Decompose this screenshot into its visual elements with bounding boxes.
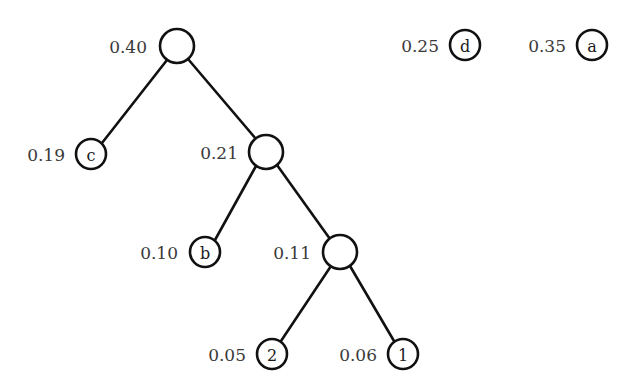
node-label-one: 1	[398, 346, 408, 365]
node-label-two: 2	[267, 346, 277, 365]
node-circle-n021[interactable]	[249, 135, 283, 169]
node-weight-one: 0.06	[339, 345, 377, 365]
tree-node-one[interactable]: 1	[388, 339, 418, 369]
tree-edge-n011-two	[281, 266, 331, 341]
node-weight-two: 0.05	[208, 345, 246, 365]
tree-node-a[interactable]: a	[577, 30, 607, 60]
tree-node-b[interactable]: b	[190, 237, 220, 267]
tree-diagram: cb21da 0.400.190.210.100.110.050.060.250…	[0, 0, 640, 392]
diagram-canvas: cb21da 0.400.190.210.100.110.050.060.250…	[0, 0, 640, 392]
tree-edge-n021-b	[215, 166, 256, 240]
tree-edge-root-c	[102, 60, 167, 143]
tree-node-d[interactable]: d	[450, 30, 480, 60]
node-layer: cb21da	[76, 29, 607, 369]
edge-layer	[102, 59, 394, 341]
node-label-a: a	[587, 37, 597, 56]
tree-node-n011[interactable]	[323, 235, 357, 269]
tree-edge-root-n021	[188, 59, 256, 139]
node-label-d: d	[460, 37, 470, 56]
node-weight-d: 0.25	[401, 36, 439, 56]
node-label-b: b	[200, 244, 210, 263]
tree-edge-n011-one	[350, 266, 394, 341]
tree-node-c[interactable]: c	[76, 139, 106, 169]
node-weight-a: 0.35	[528, 36, 566, 56]
node-weight-n011: 0.11	[273, 243, 311, 263]
node-weight-root: 0.40	[109, 37, 147, 57]
node-circle-n011[interactable]	[323, 235, 357, 269]
node-weight-n021: 0.21	[200, 143, 238, 163]
node-label-c: c	[87, 146, 96, 165]
tree-node-n021[interactable]	[249, 135, 283, 169]
tree-node-root[interactable]	[160, 29, 194, 63]
node-weight-c: 0.19	[27, 145, 65, 165]
node-weight-b: 0.10	[140, 243, 178, 263]
tree-node-two[interactable]: 2	[257, 339, 287, 369]
node-circle-root[interactable]	[160, 29, 194, 63]
tree-edge-n021-n011	[277, 165, 330, 239]
